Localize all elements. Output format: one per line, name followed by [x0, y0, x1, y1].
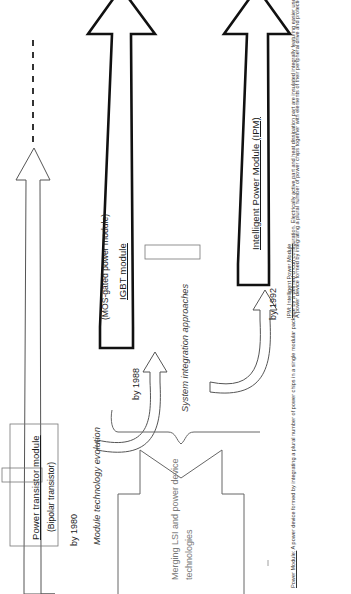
stage-subtitle-power-transistor-module: (Bipolar transistor) — [46, 462, 56, 532]
arrow-merging-technologies — [118, 450, 244, 594]
axis-label-merging-line2: technologies — [184, 529, 194, 580]
diagram-canvas: Power transistor module (Bipolar transis… — [0, 0, 351, 594]
note-power-module-body: A power device formed by integrating a p… — [290, 0, 296, 551]
stage-title-igbt-module: IGBT module — [117, 243, 128, 300]
curved-arrow-to-ipm — [210, 290, 277, 393]
axis-label-module-evolution: Module technology evolution — [92, 427, 102, 545]
axis-label-merging-line1: Merging LSI and power device — [170, 458, 180, 580]
stage-year-power-transistor-module: by 1980 — [69, 514, 79, 546]
axis-label-system-integration: System integration approaches — [180, 284, 190, 412]
note-power-module: Power Module: A power device formed by i… — [290, 338, 298, 588]
stage-title-power-transistor-module: Power transistor module — [30, 435, 41, 540]
note-power-module-heading: Power Module: — [290, 551, 296, 588]
stage-year-intelligent-power-module: by 1992 — [268, 288, 278, 320]
label-box-system-integration — [145, 245, 200, 259]
stage-title-intelligent-power-module: Intelligent Power Module (IPM) — [250, 117, 261, 250]
stage-subtitle-igbt-module: (MOS-gated power module) — [100, 214, 110, 320]
stage-year-igbt-module: by 1988 — [131, 368, 141, 400]
